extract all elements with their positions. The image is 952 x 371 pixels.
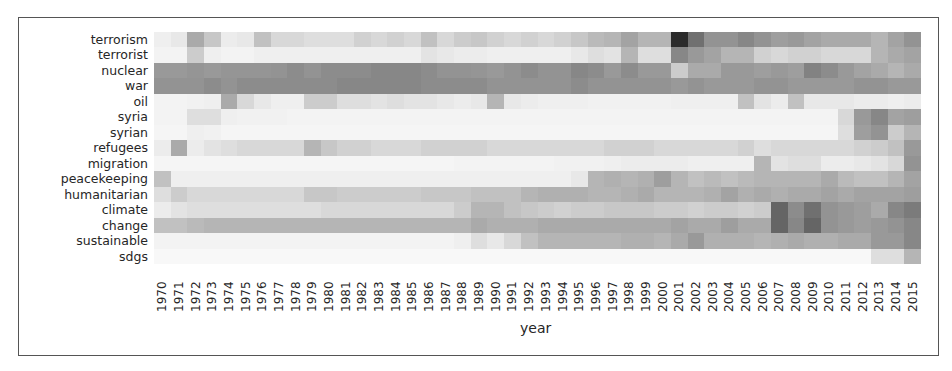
heatmap-cell xyxy=(638,218,655,233)
heatmap-cell xyxy=(838,156,855,171)
y-tick-label: nuclear xyxy=(20,63,148,78)
heatmap-cell xyxy=(471,202,488,217)
heatmap-cell xyxy=(337,171,354,186)
heatmap-cell xyxy=(871,32,888,47)
heatmap-cell xyxy=(821,171,838,186)
heatmap-cell xyxy=(771,171,788,186)
heatmap-cell xyxy=(588,156,605,171)
heatmap-cell xyxy=(838,32,855,47)
heatmap-cell xyxy=(621,32,638,47)
heatmap-cell xyxy=(738,218,755,233)
heatmap-cell xyxy=(437,233,454,248)
heatmap-cell xyxy=(287,125,304,140)
heatmap-cell xyxy=(404,109,421,124)
x-tick: 1980 xyxy=(321,268,338,316)
x-tick-label: 2014 xyxy=(889,281,903,312)
y-axis-labels: terrorismterroristnuclearwaroilsyriasyri… xyxy=(20,32,148,264)
heatmap-cell xyxy=(854,233,871,248)
heatmap-cell xyxy=(337,47,354,62)
x-tick-label: 1974 xyxy=(222,281,236,312)
heatmap-cell xyxy=(571,32,588,47)
heatmap-cell xyxy=(187,140,204,155)
heatmap-cell xyxy=(721,202,738,217)
heatmap-cell xyxy=(771,187,788,202)
y-tick-label: humanitarian xyxy=(20,187,148,202)
heatmap-cell xyxy=(237,78,254,93)
heatmap-cell xyxy=(738,233,755,248)
heatmap-cell xyxy=(321,187,338,202)
heatmap-cell xyxy=(237,32,254,47)
heatmap-cell xyxy=(754,156,771,171)
heatmap-cell xyxy=(221,78,238,93)
heatmap-cell xyxy=(688,218,705,233)
heatmap-cell xyxy=(738,47,755,62)
heatmap-cell xyxy=(654,187,671,202)
heatmap-cell xyxy=(237,125,254,140)
x-tick: 1975 xyxy=(237,268,254,316)
heatmap-cell xyxy=(654,78,671,93)
heatmap-cell xyxy=(154,47,171,62)
heatmap-cell xyxy=(904,78,921,93)
heatmap-cell xyxy=(654,94,671,109)
heatmap-cell xyxy=(287,109,304,124)
heatmap-cell xyxy=(804,32,821,47)
heatmap-cell xyxy=(321,78,338,93)
y-tick-label: terrorist xyxy=(20,47,148,62)
x-tick-label: 1972 xyxy=(189,281,203,312)
y-tick-label: peacekeeping xyxy=(20,171,148,186)
heatmap-cell xyxy=(754,233,771,248)
heatmap-cell xyxy=(571,187,588,202)
heatmap-cell xyxy=(604,32,621,47)
heatmap-cell xyxy=(521,156,538,171)
heatmap-cell xyxy=(788,47,805,62)
heatmap-cell xyxy=(337,140,354,155)
heatmap-cell xyxy=(504,187,521,202)
heatmap-cell xyxy=(254,125,271,140)
heatmap-cell xyxy=(654,63,671,78)
heatmap-cell xyxy=(888,233,905,248)
heatmap-cell xyxy=(721,156,738,171)
x-tick-label: 1979 xyxy=(305,281,319,312)
heatmap-cell xyxy=(204,109,221,124)
heatmap-cell xyxy=(404,125,421,140)
heatmap-cell xyxy=(421,109,438,124)
heatmap-cell xyxy=(437,202,454,217)
heatmap-cell xyxy=(688,249,705,264)
heatmap-cell xyxy=(654,156,671,171)
heatmap-cell xyxy=(821,125,838,140)
heatmap-cell xyxy=(371,125,388,140)
heatmap-cell xyxy=(237,218,254,233)
heatmap-cell xyxy=(371,63,388,78)
x-tick: 1970 xyxy=(154,268,171,316)
heatmap-cell xyxy=(688,109,705,124)
heatmap-cell xyxy=(154,202,171,217)
x-tick-label: 2008 xyxy=(789,281,803,312)
heatmap-cell xyxy=(788,94,805,109)
x-tick: 1991 xyxy=(504,268,521,316)
heatmap-cell xyxy=(271,32,288,47)
heatmap-cell xyxy=(154,94,171,109)
heatmap-cell xyxy=(888,156,905,171)
x-tick-label: 1983 xyxy=(372,281,386,312)
heatmap-cell xyxy=(204,187,221,202)
heatmap-cell xyxy=(604,47,621,62)
heatmap-cell xyxy=(888,218,905,233)
x-tick: 1999 xyxy=(638,268,655,316)
heatmap-cell xyxy=(371,171,388,186)
heatmap-cell xyxy=(604,171,621,186)
heatmap-cell xyxy=(571,94,588,109)
heatmap-cell xyxy=(221,125,238,140)
heatmap-cell xyxy=(237,109,254,124)
heatmap-cell xyxy=(604,109,621,124)
heatmap-cell xyxy=(721,233,738,248)
heatmap-cell xyxy=(154,171,171,186)
heatmap-cell xyxy=(154,218,171,233)
heatmap-cell xyxy=(854,125,871,140)
x-tick-label: 1970 xyxy=(155,281,169,312)
heatmap-cell xyxy=(437,187,454,202)
heatmap-cell xyxy=(437,32,454,47)
heatmap-cell xyxy=(721,171,738,186)
heatmap-cell xyxy=(554,171,571,186)
heatmap-cell xyxy=(321,109,338,124)
heatmap-cell xyxy=(504,233,521,248)
